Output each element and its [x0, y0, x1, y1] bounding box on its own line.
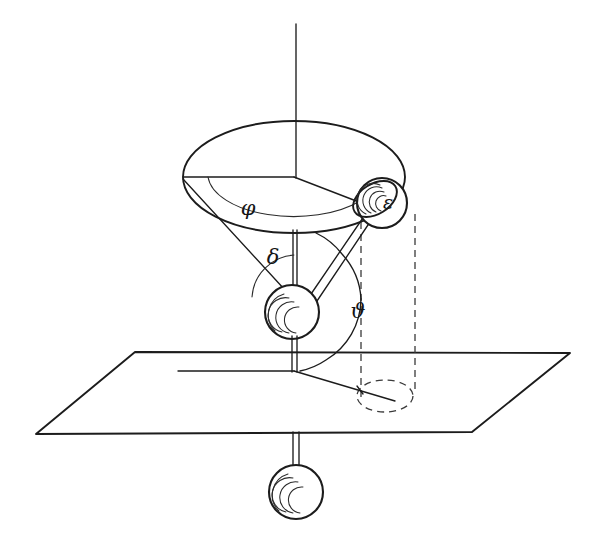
- polar-angle-theta-label: ϑ: [350, 299, 365, 323]
- spherical-pendulum-diagram: φ δ ϑ ε: [0, 0, 605, 545]
- middle-pivot-ball: [265, 285, 319, 339]
- cone-half-angle-delta-label: δ: [267, 245, 280, 269]
- figure-root: φ δ ϑ ε: [0, 0, 605, 545]
- epsilon-mark-label: ε: [383, 191, 393, 213]
- middle-ball-group: [265, 285, 319, 339]
- cone-generator-left: [183, 179, 285, 290]
- lower-assembly-group: [269, 432, 323, 519]
- projection-circle-dashed: [357, 380, 413, 412]
- lower-counterweight-ball: [269, 465, 323, 519]
- azimuth-angle-phi-label: φ: [241, 196, 256, 220]
- reference-plane-group: [36, 352, 570, 434]
- phi-angle-arc: [208, 177, 360, 217]
- theta-angle-arc-upper: [316, 233, 361, 299]
- plane-lines-group: [178, 371, 395, 401]
- through-post-group: [292, 336, 297, 372]
- plane-projection-radius: [294, 371, 395, 401]
- reference-plane: [36, 352, 570, 434]
- projection-group: [357, 214, 415, 412]
- cone-group: [183, 179, 374, 304]
- rigid-rod-edge-b: [315, 216, 374, 304]
